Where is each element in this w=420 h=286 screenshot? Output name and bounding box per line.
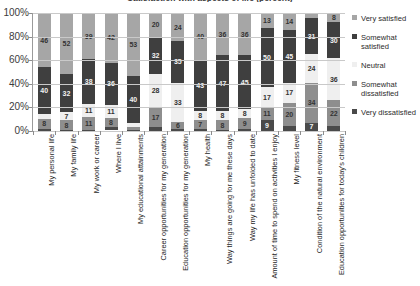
legend-item[interactable]: Somewhat satisfied [352, 33, 420, 51]
bar-segment[interactable]: 43 [194, 60, 207, 111]
bar-column[interactable]: 43124347 [305, 13, 318, 131]
bar-segment-value: 42 [107, 34, 115, 41]
bar-segment-value: 33 [174, 99, 182, 106]
x-axis-category-label: Condition of the natural environment [316, 134, 324, 284]
bar-segment[interactable]: 45 [238, 55, 251, 108]
x-axis-category-label: Where I live [115, 134, 123, 284]
bar-segment[interactable]: 8 [38, 119, 51, 128]
x-axis-category-label: My family life [70, 134, 78, 284]
bar-column[interactable]: 5232781 [60, 13, 73, 131]
bar-column[interactable]: 42361182 [105, 13, 118, 131]
x-axis-category-label: Amount of time to spend on activities I … [271, 134, 279, 284]
y-axis-tick-label: 60% [9, 55, 29, 65]
bar-segment[interactable]: 33 [171, 83, 184, 122]
bar-segment-value: 52 [63, 40, 71, 47]
bar-column[interactable]: 4043872 [194, 13, 207, 131]
bar-segment[interactable]: 8 [216, 120, 229, 129]
x-axis-tick-mark [345, 131, 346, 135]
bar-segment[interactable]: 8 [238, 109, 251, 118]
bar-segment[interactable]: 46 [38, 13, 51, 67]
bar-column[interactable]: 144517204 [283, 13, 296, 131]
bar-segment[interactable]: 42 [105, 13, 118, 63]
x-axis-category-label: My personal life [48, 134, 56, 284]
legend-swatch-icon [352, 15, 357, 20]
bar-segment[interactable]: 28 [149, 74, 162, 107]
bar-column[interactable]: 24353362 [171, 13, 184, 131]
bar-segment[interactable]: 34 [305, 83, 318, 123]
bar-segment-value: 40 [40, 87, 48, 94]
bar-segment[interactable]: 53 [127, 13, 140, 76]
bar-segment[interactable]: 11 [82, 117, 95, 130]
legend-label: Very satisfied [361, 14, 406, 23]
bar-segment[interactable]: 36 [216, 13, 229, 55]
bar-column[interactable]: 393811111 [82, 13, 95, 131]
bar-segment[interactable]: 20 [149, 13, 162, 37]
x-axis-category-label: My fitness level [293, 134, 301, 284]
bar-segment[interactable]: 40 [127, 76, 140, 123]
x-axis-tick-mark [78, 131, 79, 135]
bar-segment-value: 11 [107, 108, 114, 115]
bar-segment[interactable]: 2 [105, 127, 118, 129]
bar-segment-value: 46 [40, 37, 48, 44]
bar-segment-value: 8 [332, 14, 336, 21]
y-axis-tick-label: 100% [3, 8, 29, 18]
bar-segment[interactable]: 11 [82, 104, 95, 117]
bar-segment[interactable]: 52 [60, 13, 73, 74]
bar-segment-value: 32 [152, 52, 160, 59]
bar-segment[interactable]: 8 [105, 118, 118, 127]
x-axis-category-label: Way things are going for me these days [226, 134, 234, 284]
bar-column[interactable]: 135017119 [261, 13, 274, 131]
bar-segment[interactable]: 8 [194, 111, 207, 120]
x-axis-category-label: Career opportunities for my generation [160, 134, 168, 284]
bar-segment[interactable]: 14 [283, 13, 296, 30]
bar-segment[interactable]: 8 [216, 111, 229, 120]
bar-segment[interactable]: 20 [283, 103, 296, 127]
bar-segment-value: 8 [220, 112, 224, 119]
bar-segment[interactable]: 35 [171, 41, 184, 82]
legend-item[interactable]: Very satisfied [352, 14, 420, 23]
bar-segment-value: 34 [308, 99, 316, 106]
bar-segment[interactable]: 17 [261, 87, 274, 107]
legend-item[interactable]: Neutral [352, 61, 420, 70]
bar-column[interactable]: 4640482 [38, 13, 51, 131]
bar-segment[interactable]: 36 [327, 58, 340, 100]
x-axis-tick-mark [33, 131, 34, 135]
bar-segment-value: 22 [330, 110, 338, 117]
legend-swatch-icon [352, 34, 357, 39]
bar-segment-value: 8 [243, 110, 247, 117]
bar-column[interactable]: 83036224 [327, 13, 340, 131]
bar-segment[interactable]: 6 [171, 122, 184, 129]
bar-segment[interactable]: 17 [283, 83, 296, 103]
y-axis-tick-label: 40% [9, 79, 29, 89]
bar-column[interactable]: 5340421 [127, 13, 140, 131]
bar-segment-value: 30 [330, 37, 338, 44]
bar-segment-value: 53 [129, 41, 137, 48]
bar-column[interactable]: 203228173 [149, 13, 162, 131]
bar-segment[interactable]: 38 [82, 59, 95, 104]
bar-segment[interactable]: 30 [327, 22, 340, 57]
bar-segment[interactable]: 32 [149, 37, 162, 75]
legend-item[interactable]: Very dissatisfied [352, 108, 420, 117]
bar-segment-value: 8 [64, 122, 68, 129]
bar-segment[interactable]: 11 [261, 107, 274, 120]
bar-column[interactable]: 3645892 [238, 13, 251, 131]
bar-segment[interactable]: 8 [327, 13, 340, 22]
x-axis-labels: My personal lifeMy family lifeMy work or… [33, 134, 345, 284]
bar-segment[interactable]: 7 [305, 123, 318, 131]
bar-segment[interactable]: 17 [149, 107, 162, 127]
bar-segment[interactable]: 9 [261, 120, 274, 131]
bar-segment[interactable]: 7 [194, 120, 207, 128]
bar-segment[interactable]: 8 [60, 120, 73, 129]
legend-swatch-icon [352, 109, 357, 114]
legend-item[interactable]: Somewhat dissatisfied [352, 80, 420, 98]
x-axis-tick-mark [167, 131, 168, 135]
bar-segment[interactable]: 9 [238, 118, 251, 129]
bar-column[interactable]: 3647881 [216, 13, 229, 131]
bar-segment[interactable]: 7 [60, 112, 73, 120]
bar-segment[interactable]: 24 [305, 54, 318, 82]
bar-segment[interactable]: 22 [327, 100, 340, 126]
bar-segment[interactable]: 13 [261, 13, 274, 28]
bar-segment[interactable]: 36 [238, 13, 251, 55]
x-axis-tick-mark [144, 131, 145, 135]
chart-legend: Very satisfiedSomewhat satisfiedNeutralS… [352, 14, 420, 127]
